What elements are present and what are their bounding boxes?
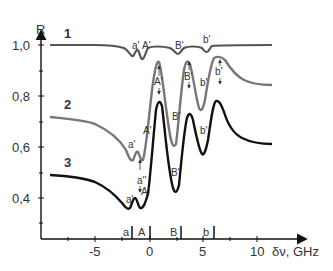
marker-a: a [123, 226, 130, 238]
y-tick-0-4: 0,4 [12, 191, 30, 206]
resonance-markers: a A B b [123, 226, 214, 239]
y-tick-1-0: 1,0 [12, 38, 30, 53]
x-tick-10: 10 [250, 244, 264, 259]
reflectance-chart: R 1,0 0,8 0,6 0,4 -5 0 5 10 δν, GHz [0, 0, 333, 271]
curve-3 [50, 101, 272, 209]
x-axis-label: δν, GHz [272, 244, 319, 259]
curve-3-annotations: a' a'' A' B' b' [126, 125, 208, 205]
x-axis: -5 0 5 10 δν, GHz [41, 236, 319, 259]
x-tick-0: 0 [146, 244, 153, 259]
curve-2 [50, 57, 272, 161]
y-axis: R 1,0 0,8 0,6 0,4 [12, 22, 45, 239]
c2-label-B-low: B' [172, 111, 181, 122]
c2-label-B-peak: B' [184, 71, 193, 82]
c2-label-A-low: A' [143, 125, 152, 136]
c3-label-A: A' [141, 186, 150, 197]
c3-label-B: B' [171, 167, 180, 178]
y-axis-label: R [36, 22, 45, 37]
marker-A: A [138, 226, 146, 238]
x-tick-minus-5: -5 [89, 244, 101, 259]
c2-label-b-peak: b' [215, 66, 223, 77]
c2-label-b-low: b' [200, 77, 208, 88]
c2-label-a: a' [128, 139, 136, 150]
c1-label-A: A' [142, 40, 151, 51]
y-tick-0-8: 0,8 [12, 89, 30, 104]
c3-label-b: b' [200, 125, 208, 136]
marker-B: B [170, 226, 177, 238]
c2-label-A-peak: A' [154, 76, 163, 87]
c1-label-b: b' [203, 34, 211, 45]
marker-b: b [203, 226, 209, 238]
c1-label-B: B' [175, 40, 184, 51]
curve-2-label: 2 [64, 97, 71, 112]
x-tick-5: 5 [199, 244, 206, 259]
curve-1 [50, 45, 272, 59]
curve-1-label: 1 [64, 26, 71, 41]
curve-3-label: 3 [64, 155, 71, 170]
y-tick-0-6: 0,6 [12, 140, 30, 155]
c3-label-a: a' [126, 194, 134, 205]
c3-label-a-double: a'' [137, 175, 146, 186]
c1-label-a: a' [132, 40, 140, 51]
